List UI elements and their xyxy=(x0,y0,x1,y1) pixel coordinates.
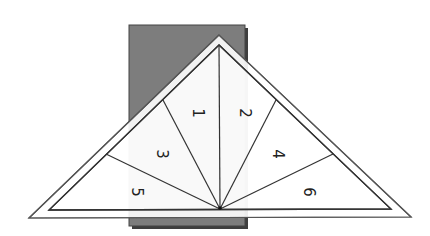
section-label-6: 6 xyxy=(300,187,318,197)
section-label-3: 3 xyxy=(153,149,171,159)
section-label-2: 2 xyxy=(236,108,254,118)
section-label-4: 4 xyxy=(269,149,287,159)
focal-point xyxy=(218,206,222,210)
section-label-5: 5 xyxy=(128,187,146,197)
section-label-1: 1 xyxy=(189,108,207,118)
paper-piecing-diagram: 1 2 3 4 5 6 xyxy=(0,0,430,236)
